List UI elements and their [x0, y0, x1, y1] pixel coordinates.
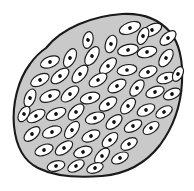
tissue-figure — [0, 0, 194, 191]
tissue-diagram-canvas — [0, 0, 194, 191]
